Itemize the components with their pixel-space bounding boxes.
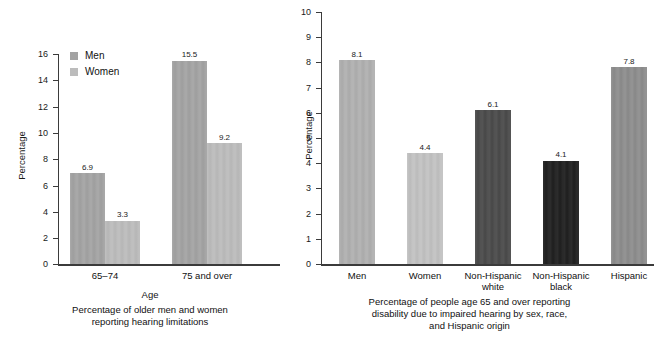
bar-value-non-hispanic-white: 6.1 — [475, 101, 511, 109]
bar-men-65-74 — [70, 173, 105, 264]
bar-women — [407, 153, 443, 264]
left-y-tick-label: 2 — [26, 234, 48, 243]
legend-item-women: Women — [70, 64, 119, 80]
right-y-tick-label: 0 — [290, 260, 311, 269]
left-y-tick-label: 12 — [26, 103, 48, 112]
left-y-tick-label: 10 — [26, 129, 48, 138]
left-y-tick — [53, 107, 58, 108]
right-y-tick-label: 4 — [290, 159, 311, 168]
right-category-women-line1: Women — [390, 270, 460, 281]
left-category-label-75-and-over: 75 and over — [167, 270, 247, 281]
right-category-nhblack-line2: black — [522, 281, 600, 292]
bar-value-women-75-and-over: 9.2 — [207, 134, 242, 142]
right-category-nhblack-line1: Non-Hispanic — [522, 270, 600, 281]
bar-non-hispanic-white — [475, 110, 511, 264]
left-y-tick — [53, 264, 58, 265]
legend-label-women: Women — [85, 67, 119, 77]
right-chart-caption-line2: disability due to impaired hearing by se… — [282, 308, 657, 320]
right-category-label-men: Men — [322, 270, 392, 281]
left-y-axis-line — [58, 54, 59, 265]
right-y-tick — [316, 138, 321, 139]
legend-swatch-women — [70, 68, 78, 76]
right-category-label-non-hispanic-white: Non-Hispanic white — [454, 270, 532, 292]
bar-value-men-65-74: 6.9 — [70, 164, 105, 172]
right-y-tick — [316, 264, 321, 265]
bar-value-men-75-and-over: 15.5 — [172, 51, 207, 59]
left-y-tick — [53, 212, 58, 213]
bar-men — [339, 60, 375, 264]
legend-item-men: Men — [70, 48, 119, 64]
right-y-tick-label: 5 — [290, 134, 311, 143]
right-y-tick-label: 6 — [290, 109, 311, 118]
right-y-tick — [316, 239, 321, 240]
bar-value-women-65-74: 3.3 — [105, 211, 140, 219]
right-y-tick-label: 3 — [290, 184, 311, 193]
left-y-tick — [53, 186, 58, 187]
left-x-axis-line — [58, 264, 280, 266]
left-chart-figure: Percentage 16 14 12 10 8 6 4 2 0 Men Wom… — [0, 0, 300, 343]
right-y-tick-label: 10 — [290, 8, 311, 17]
left-category-label-65-74: 65–74 — [65, 270, 145, 281]
left-chart-legend: Men Women — [70, 48, 119, 80]
left-chart-caption-line2: reporting hearing limitations — [0, 316, 300, 328]
left-y-tick — [53, 133, 58, 134]
right-category-nhwhite-line1: Non-Hispanic — [454, 270, 532, 281]
legend-swatch-men — [70, 52, 78, 60]
bar-value-men: 8.1 — [339, 51, 375, 59]
right-y-tick — [316, 214, 321, 215]
right-y-tick — [316, 88, 321, 89]
right-chart-caption-line3: and Hispanic origin — [282, 320, 657, 332]
right-y-tick — [316, 37, 321, 38]
bar-value-women: 4.4 — [407, 144, 443, 152]
left-y-tick-label: 0 — [26, 260, 48, 269]
right-x-axis-line — [321, 264, 654, 266]
right-y-tick — [316, 188, 321, 189]
left-y-tick — [53, 238, 58, 239]
right-category-label-women: Women — [390, 270, 460, 281]
right-category-men-line1: Men — [322, 270, 392, 281]
right-category-label-non-hispanic-black: Non-Hispanic black — [522, 270, 600, 292]
bar-women-65-74 — [105, 221, 140, 264]
left-x-axis-title: Age — [0, 289, 300, 300]
bar-non-hispanic-black — [543, 161, 579, 264]
bar-hispanic — [611, 67, 647, 264]
right-category-label-hispanic: Hispanic — [594, 270, 657, 281]
legend-label-men: Men — [85, 51, 104, 61]
right-y-tick — [316, 113, 321, 114]
right-y-tick-label: 9 — [290, 33, 311, 42]
right-y-tick — [316, 12, 321, 13]
right-category-nhwhite-line2: white — [454, 281, 532, 292]
right-category-hispanic-line1: Hispanic — [594, 270, 657, 281]
right-y-tick-label: 2 — [290, 210, 311, 219]
left-y-tick — [53, 159, 58, 160]
left-y-tick-label: 14 — [26, 76, 48, 85]
left-y-tick-label: 4 — [26, 208, 48, 217]
right-y-tick — [316, 62, 321, 63]
left-y-tick-label: 8 — [26, 155, 48, 164]
right-y-axis-line — [321, 12, 322, 265]
right-y-tick-label: 7 — [290, 84, 311, 93]
left-y-tick-label: 16 — [26, 50, 48, 59]
bar-value-non-hispanic-black: 4.1 — [543, 151, 579, 159]
left-y-axis-title: Percentage — [16, 116, 27, 196]
bar-men-75-and-over — [172, 61, 207, 264]
bar-value-hispanic: 7.8 — [611, 58, 647, 66]
left-y-tick-label: 6 — [26, 182, 48, 191]
left-y-tick — [53, 54, 58, 55]
left-chart-caption-line1: Percentage of older men and women — [0, 304, 300, 316]
left-y-tick — [53, 80, 58, 81]
right-y-tick-label: 8 — [290, 58, 311, 67]
right-chart-caption-line1: Percentage of people age 65 and over rep… — [282, 296, 657, 308]
bar-women-75-and-over — [207, 143, 242, 264]
right-chart-figure: Percentage 10 9 8 7 6 5 4 3 2 1 0 8.1 4.… — [282, 0, 657, 343]
right-y-tick-label: 1 — [290, 235, 311, 244]
right-y-tick — [316, 163, 321, 164]
